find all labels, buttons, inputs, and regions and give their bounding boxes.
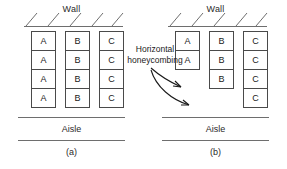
rack-column-c: C C C C xyxy=(243,31,268,108)
storage-box: C xyxy=(243,31,268,51)
storage-box: B xyxy=(209,50,234,70)
storage-box: A xyxy=(31,50,56,70)
rack-column-b: B B B B xyxy=(65,31,90,108)
panel-caption: (a) xyxy=(0,147,143,157)
wall-hatching-icon xyxy=(168,12,268,27)
rack-column-c: C C C C xyxy=(99,31,124,108)
storage-box: C xyxy=(243,50,268,70)
storage-box: B xyxy=(65,31,90,51)
diagram-panel-a: Wall A A A A B B B B C C C C Ai xyxy=(0,0,143,169)
aisle-label: Aisle xyxy=(144,124,287,134)
storage-box: C xyxy=(99,88,124,108)
storage-box: A xyxy=(31,88,56,108)
storage-box: B xyxy=(209,31,234,51)
storage-box: B xyxy=(65,88,90,108)
wall-line xyxy=(24,26,123,27)
storage-box: C xyxy=(243,69,268,89)
storage-box: C xyxy=(243,88,268,108)
aisle-bottom-line xyxy=(18,140,125,141)
rack-column-a: A A A A xyxy=(31,31,56,108)
wall-line xyxy=(168,26,267,27)
aisle-top-line xyxy=(162,117,269,118)
storage-box: A xyxy=(31,69,56,89)
rack-column-b: B B B xyxy=(209,31,234,89)
storage-box: B xyxy=(65,50,90,70)
aisle-top-line xyxy=(18,117,125,118)
storage-box: B xyxy=(209,69,234,89)
aisle-label: Aisle xyxy=(0,124,143,134)
annotation-arrows-icon xyxy=(140,62,200,112)
panel-caption: (b) xyxy=(144,147,287,157)
storage-box: C xyxy=(99,69,124,89)
storage-box: B xyxy=(65,69,90,89)
aisle-bottom-line xyxy=(162,140,269,141)
storage-box: A xyxy=(31,31,56,51)
wall-hatching-icon xyxy=(24,12,124,27)
